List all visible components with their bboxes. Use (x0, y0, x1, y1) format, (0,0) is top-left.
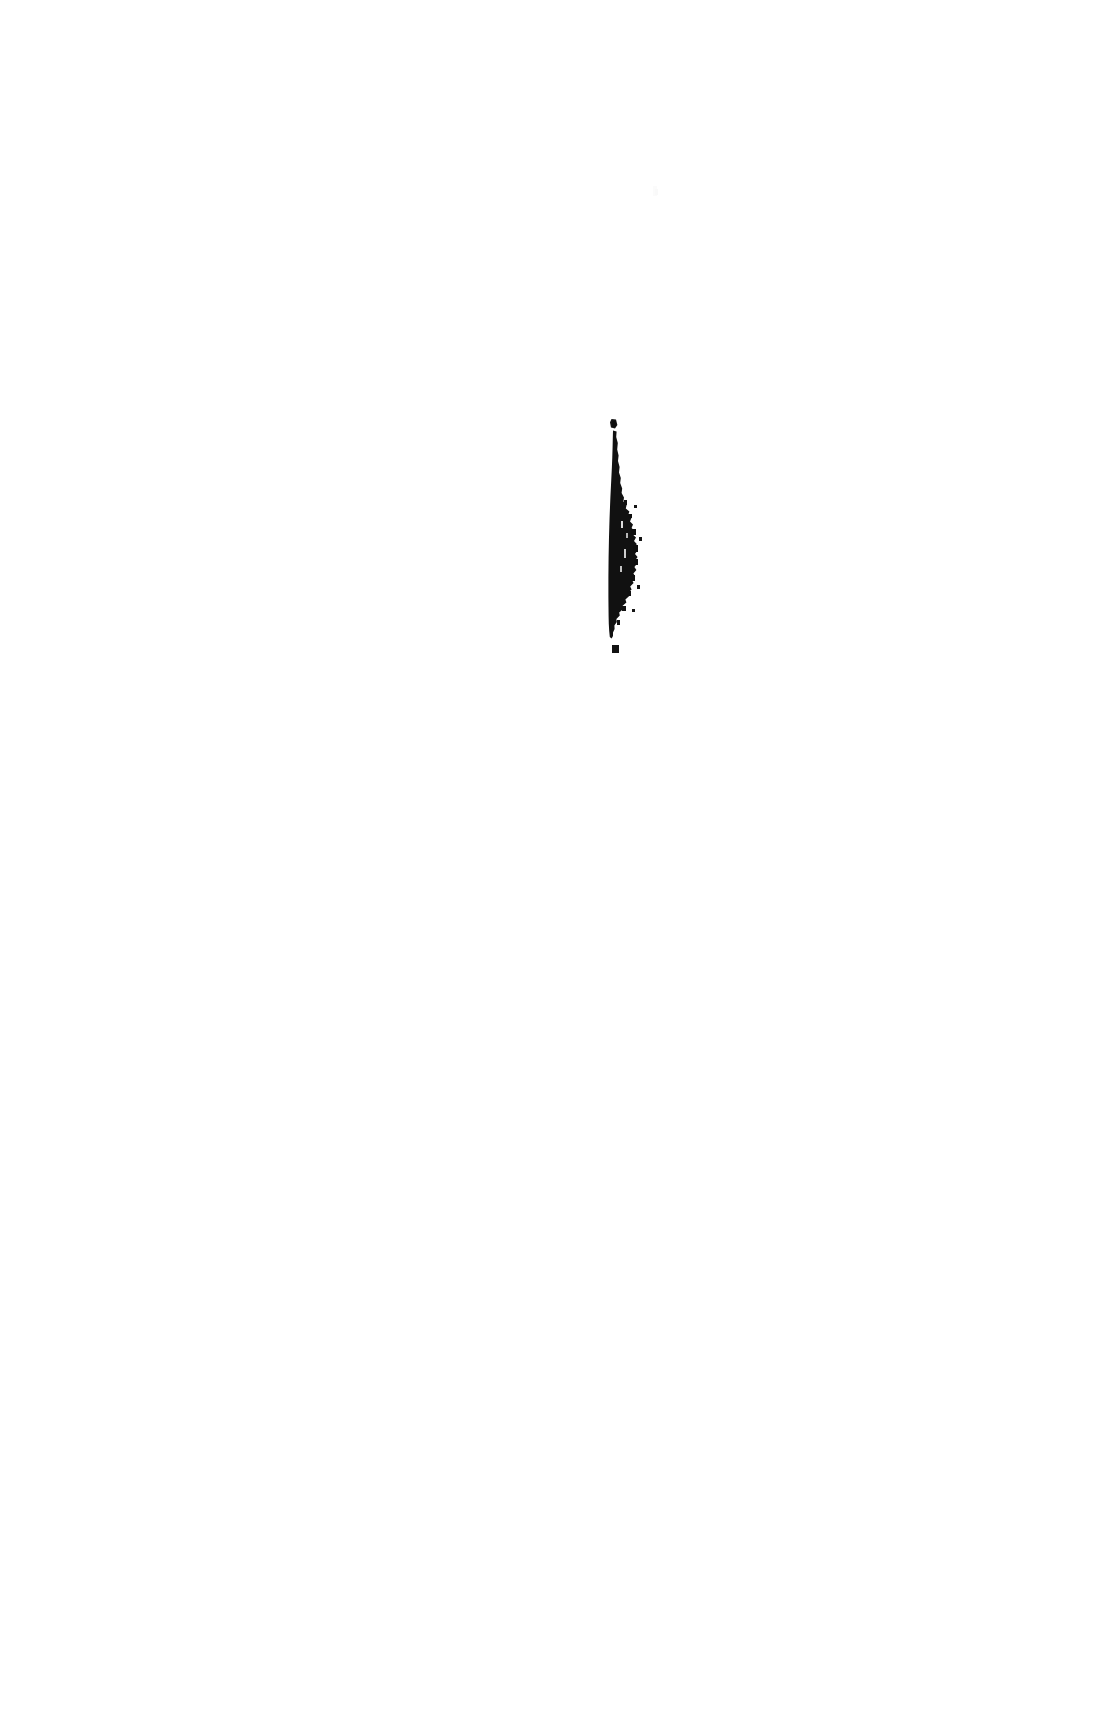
main-stroke-icon (608, 431, 642, 639)
faint-speck-icon (653, 186, 658, 196)
ink-layer (0, 0, 1104, 1721)
bottom-dot-icon (612, 645, 619, 653)
top-tick-icon (610, 419, 617, 429)
page-canvas: A single narrow black vertical brush str… (0, 0, 1104, 1721)
